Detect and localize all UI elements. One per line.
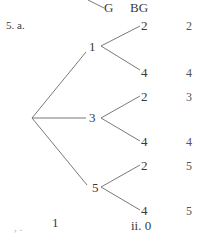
branch-5-to-4: [101, 187, 140, 210]
tree-diagram: G BG 5. a. 1 3 5 2 4 2 4 2 4 2 4 3 4 5 5…: [0, 0, 207, 233]
tree-node-1: 1: [89, 40, 96, 53]
branch-root-to-5: [32, 118, 87, 185]
partial-branch-line: [88, 0, 104, 8]
tree-leaf-5-2: 2: [141, 159, 148, 172]
part-i-value: 1: [52, 216, 59, 229]
branch-1-to-4: [101, 46, 140, 70]
tree-leaf-1-2: 2: [141, 19, 148, 32]
branch-3-to-2: [101, 96, 140, 118]
tree-leaf-3-4: 4: [141, 135, 148, 148]
part-ii-answer: ii. 0: [131, 219, 151, 232]
column-header-bg: BG: [130, 1, 148, 14]
outcome-result: 4: [186, 136, 192, 148]
outcome-result: 5: [186, 205, 192, 217]
outcome-result: 5: [186, 160, 192, 172]
outcome-result: 2: [186, 20, 192, 32]
tree-leaf-1-4: 4: [141, 66, 148, 79]
problem-label: 5. a.: [6, 20, 25, 31]
tree-leaf-3-2: 2: [141, 90, 148, 103]
tree-branch-lines: [0, 0, 207, 233]
column-header-g: G: [104, 1, 113, 14]
outcome-result: 4: [186, 67, 192, 79]
part-i-marks: , .: [14, 222, 22, 233]
tree-leaf-5-4: 4: [141, 204, 148, 217]
branch-5-to-2: [101, 165, 140, 187]
branch-1-to-2: [101, 26, 140, 46]
outcome-result: 3: [186, 91, 192, 103]
branch-3-to-4: [101, 118, 140, 141]
tree-node-3: 3: [89, 111, 96, 124]
branch-root-to-1: [32, 52, 86, 118]
tree-node-5: 5: [92, 181, 99, 194]
